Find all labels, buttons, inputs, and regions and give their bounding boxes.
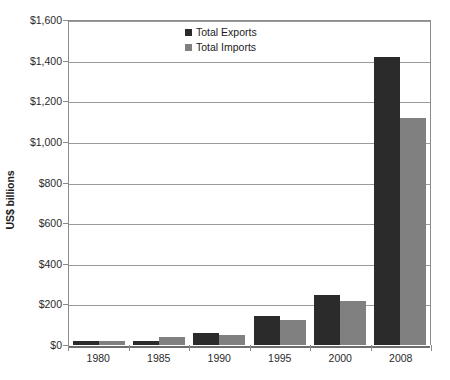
bar-group [310,21,370,345]
bar-chart-figure: US$ billions $0$200$400$600$800$1,000$1,… [0,0,450,380]
bar-exports [254,316,280,345]
x-axis-tick-label: 1985 [129,352,189,364]
x-axis-tick-mark [189,345,190,351]
x-axis-tick-label: 1995 [250,352,310,364]
x-axis-tick-mark [68,345,69,351]
x-axis-tick-marks [68,345,431,351]
x-axis-tick-label: 1990 [189,352,249,364]
bar-group [370,21,430,345]
legend-swatch-exports [185,29,192,36]
legend-entry: Total Imports [185,41,257,53]
y-axis-tick-label: $1,200 [10,96,62,106]
x-axis-tick-label: 2000 [310,352,370,364]
x-axis-tick-mark [431,345,432,351]
legend-swatch-imports [185,44,192,51]
bar-group [250,21,310,345]
bar-group [189,21,249,345]
x-axis-tick-mark [129,345,130,351]
bar-exports [193,333,219,345]
legend-entry: Total Exports [185,26,257,38]
y-axis-tick-label: $1,400 [10,56,62,66]
x-axis-tick-labels: 198019851990199520002008 [68,352,431,364]
bar-imports [280,320,306,345]
bars-layer [69,21,430,345]
y-axis-tick-label: $400 [10,259,62,269]
bar-group [129,21,189,345]
bar-imports [219,335,245,345]
chart-legend: Total ExportsTotal Imports [185,26,257,53]
x-axis-tick-label: 1980 [68,352,128,364]
y-axis-tick-label: $1,600 [10,15,62,25]
x-axis-tick-mark [310,345,311,351]
y-axis-tick-label: $0 [10,340,62,350]
plot-area [68,20,431,345]
bar-exports [314,295,340,345]
bar-imports [400,118,426,346]
y-axis-tick-label: $600 [10,218,62,228]
bar-imports [340,301,366,345]
y-axis-tick-label: $200 [10,299,62,309]
x-axis-tick-label: 2008 [371,352,431,364]
legend-label: Total Imports [196,41,256,53]
y-axis-tick-label: $800 [10,178,62,188]
bar-imports [159,337,185,345]
y-axis-tick-label: $1,000 [10,137,62,147]
legend-label: Total Exports [196,26,257,38]
bar-exports [374,57,400,345]
x-axis-tick-mark [371,345,372,351]
bar-group [69,21,129,345]
x-axis-tick-mark [250,345,251,351]
y-axis-tick-labels: $0$200$400$600$800$1,000$1,200$1,400$1,6… [10,0,62,380]
